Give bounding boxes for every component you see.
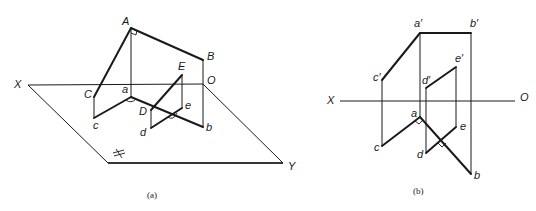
line-ac [94, 97, 131, 118]
label-O-b: O [520, 91, 529, 103]
label-B: B [207, 50, 214, 62]
label-X-b: X [326, 94, 335, 106]
label-b-prime: b′ [470, 17, 479, 29]
line-a-prime-c-prime [382, 33, 420, 80]
label-b-b: b [474, 169, 480, 181]
label-e-prime: e′ [455, 52, 464, 64]
label-d-b: d [417, 148, 424, 160]
label-c: c [93, 119, 99, 131]
label-E: E [178, 60, 186, 72]
label-O-a: O [207, 74, 216, 86]
label-d: d [140, 126, 147, 138]
line-AB [131, 28, 203, 60]
label-b: b [206, 121, 212, 133]
figure-a-perspective: A B C D E a b c d e X O Y (a) [13, 15, 296, 200]
label-Y: Y [288, 160, 296, 172]
label-a: a [122, 83, 128, 95]
figure-b-orthographic: a′ b′ c′ d′ e′ a b c d e X O (b) [326, 17, 529, 196]
label-D: D [139, 105, 147, 117]
label-a-b: a [411, 107, 417, 119]
projection-diagrams: A B C D E a b c d e X O Y (a) [0, 0, 536, 211]
plane-h-symbol [113, 149, 125, 158]
x-axis-a [28, 84, 203, 85]
label-c-b: c [374, 141, 380, 153]
caption-b: (b) [413, 186, 424, 196]
label-A: A [121, 15, 129, 27]
plane-h-outline [28, 84, 283, 163]
label-e: e [185, 99, 191, 111]
label-d-prime: d′ [422, 74, 431, 86]
caption-a: (a) [147, 190, 157, 200]
label-C: C [84, 88, 92, 100]
line-DE [151, 75, 182, 110]
label-X-a: X [13, 78, 22, 90]
label-c-prime: c′ [373, 71, 382, 83]
label-e-b: e [460, 120, 466, 132]
line-ac-b [382, 117, 420, 146]
line-de-b [426, 127, 456, 153]
label-a-prime: a′ [414, 17, 423, 29]
line-d-prime-e-prime [426, 67, 456, 88]
